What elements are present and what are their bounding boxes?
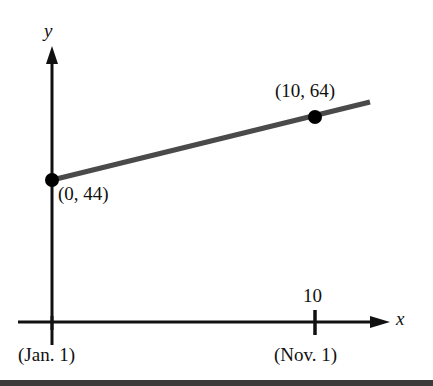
nov-label: (Nov. 1) bbox=[274, 344, 337, 366]
y-axis-arrow-icon bbox=[46, 46, 58, 64]
y-axis-label: y bbox=[44, 20, 52, 42]
jan-label: (Jan. 1) bbox=[18, 344, 75, 366]
x-axis-arrow-icon bbox=[370, 316, 390, 328]
point-b-label: (10, 64) bbox=[275, 80, 335, 102]
data-line bbox=[52, 102, 370, 180]
point-10-64 bbox=[308, 110, 322, 124]
x-axis-label: x bbox=[396, 308, 404, 330]
bottom-border bbox=[0, 380, 433, 386]
tick-10-label: 10 bbox=[303, 285, 322, 307]
point-0-44 bbox=[45, 173, 59, 187]
point-a-label: (0, 44) bbox=[58, 183, 109, 205]
